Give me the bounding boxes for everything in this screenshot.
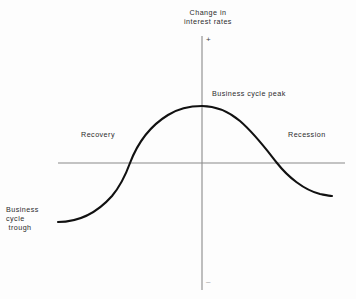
diagram-canvas <box>0 0 356 299</box>
label-business-cycle-peak: Business cycle peak <box>212 89 286 98</box>
label-recession: Recession <box>288 130 326 139</box>
positive-axis-sign: + <box>206 35 211 44</box>
business-cycle-interest-rate-diagram: Change in interest rates + – Business cy… <box>0 0 356 299</box>
label-recovery: Recovery <box>81 130 115 139</box>
axis-title: Change in interest rates <box>163 8 253 26</box>
interest-rate-curve <box>58 106 332 222</box>
negative-axis-sign: – <box>206 277 210 286</box>
label-business-cycle-trough: Business cycle trough <box>6 205 39 233</box>
